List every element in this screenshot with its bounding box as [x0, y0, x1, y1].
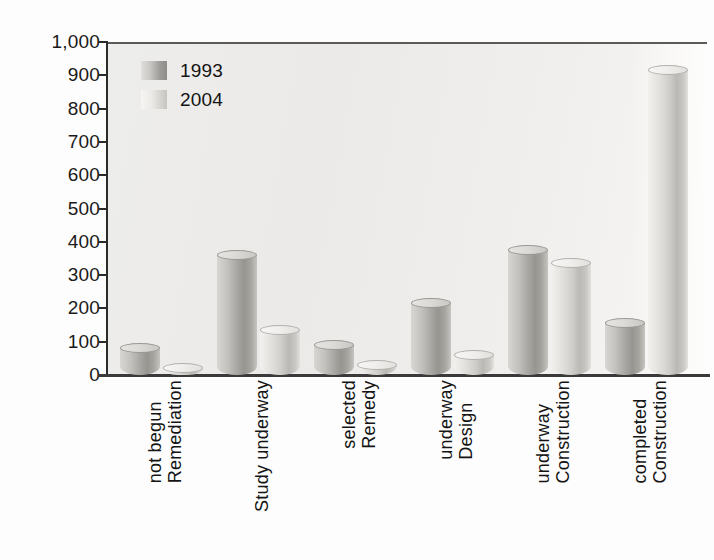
x-axis-label-line: Remedy — [359, 380, 379, 449]
bar-body — [411, 303, 451, 375]
y-tick-label: 800 — [28, 98, 100, 120]
y-tick-label: 400 — [28, 231, 100, 253]
legend: 1993 2004 — [141, 56, 223, 114]
x-axis-label-line: Study underway — [252, 380, 272, 512]
x-axis-label-line: selected — [339, 380, 359, 449]
bar-body — [605, 323, 645, 375]
bar-body — [217, 255, 257, 375]
x-axis-label-line: underway — [436, 380, 456, 460]
bar-body — [508, 250, 548, 375]
bar — [260, 330, 300, 375]
bar-body — [551, 263, 591, 375]
bar — [648, 70, 688, 375]
y-tick-label: 900 — [28, 64, 100, 86]
legend-swatch-1993 — [141, 61, 167, 80]
y-tick-label: 1,000 — [28, 31, 100, 53]
legend-item-2004: 2004 — [141, 85, 223, 114]
bar — [411, 303, 451, 375]
x-axis-label-line: underway — [533, 380, 553, 483]
x-axis-category-labels: Remediationnot begunStudy underwayRemedy… — [107, 380, 707, 560]
y-tick-label: 200 — [28, 297, 100, 319]
bar-top-cap — [314, 340, 354, 350]
bar — [120, 348, 160, 375]
bar-top-cap — [260, 325, 300, 335]
bar — [217, 255, 257, 375]
x-axis-label-4: Designunderway — [436, 380, 477, 460]
legend-label-2004: 2004 — [180, 89, 223, 111]
x-axis-label-line: completed — [630, 380, 650, 483]
y-tick-label: 500 — [28, 198, 100, 220]
bar — [357, 365, 397, 375]
bar — [508, 250, 548, 375]
x-axis-label-2: Study underway — [252, 380, 272, 512]
y-tick-label: 600 — [28, 164, 100, 186]
y-tick-label: 700 — [28, 131, 100, 153]
x-axis-label-line: not begun — [145, 380, 165, 483]
x-axis-label-line: Construction — [553, 380, 573, 483]
y-tick-label: 100 — [28, 331, 100, 353]
x-axis-label-5: Constructionunderway — [533, 380, 574, 483]
bar — [454, 355, 494, 375]
bar-top-cap — [454, 350, 494, 360]
bar-body — [260, 330, 300, 375]
bar-body — [648, 70, 688, 375]
x-axis-label-line: Construction — [650, 380, 670, 483]
x-axis-label-line: Design — [456, 380, 476, 460]
bar — [314, 345, 354, 375]
bar — [551, 263, 591, 375]
x-axis-label-6: Constructioncompleted — [630, 380, 671, 483]
x-axis-label-line: Remediation — [165, 380, 185, 483]
x-axis-label-1: Remediationnot begun — [145, 380, 186, 483]
legend-label-1993: 1993 — [180, 60, 223, 82]
y-tick-label: 0 — [28, 364, 100, 386]
legend-swatch-2004 — [141, 90, 167, 109]
legend-item-1993: 1993 — [141, 56, 223, 85]
bar-top-cap — [357, 360, 397, 370]
bar — [605, 323, 645, 375]
y-tick-label: 300 — [28, 264, 100, 286]
x-axis-label-3: Remedyselected — [339, 380, 380, 449]
y-axis-tick-labels: 01002003004005006007008009001,000 — [28, 0, 100, 560]
bar-chart: Number of sites 010020030040050060070080… — [0, 0, 714, 560]
bar — [163, 368, 203, 375]
